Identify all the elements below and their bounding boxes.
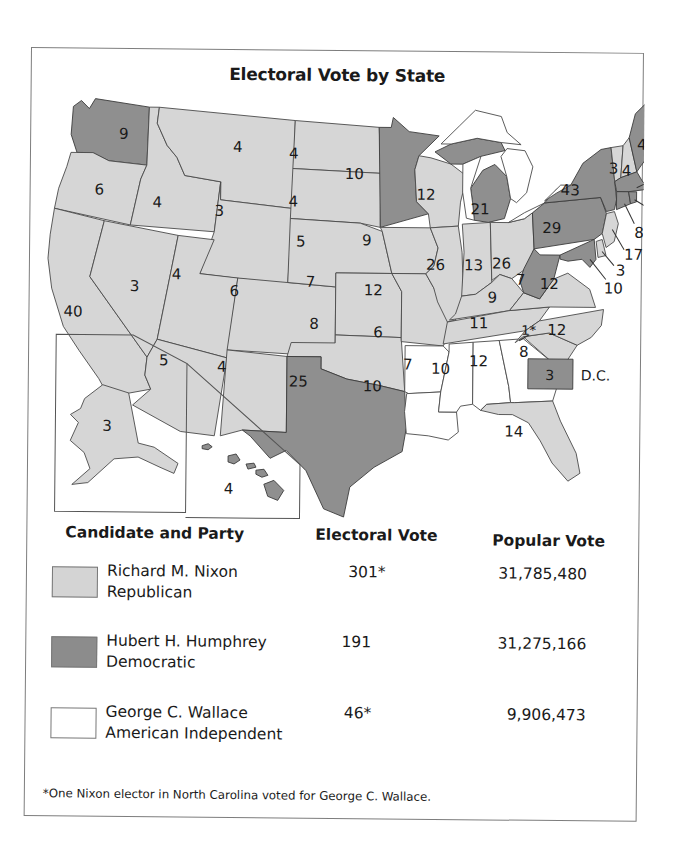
label-alabama: 10 xyxy=(431,360,450,378)
label-oregon: 6 xyxy=(95,181,105,199)
leader-line-ct xyxy=(624,204,634,224)
map-figure-frame: Electoral Vote by State xyxy=(24,47,644,822)
candidate-name-nixon: Richard M. Nixon Republican xyxy=(107,561,238,604)
swatch-republican xyxy=(52,566,98,597)
state-connecticut[interactable] xyxy=(616,192,630,210)
footnote: *One Nixon elector in North Carolina vot… xyxy=(43,786,431,804)
label-nevada: 3 xyxy=(130,277,140,295)
candidate-name: Hubert H. Humphrey xyxy=(106,631,267,654)
candidate-name: Richard M. Nixon xyxy=(107,561,238,583)
label-iowa: 9 xyxy=(362,231,372,249)
legend-row-wallace: George C. Wallace American Independent 4… xyxy=(25,705,636,761)
label-arizona: 5 xyxy=(159,351,169,369)
label-ohio: 26 xyxy=(492,254,511,272)
label-california: 40 xyxy=(63,302,82,320)
label-south-carolina: 8 xyxy=(519,343,529,361)
label-nebraska: 5 xyxy=(296,233,306,251)
label-alaska: 3 xyxy=(102,417,112,435)
candidate-name-humphrey: Hubert H. Humphrey Democratic xyxy=(106,631,267,675)
label-connecticut: 8 xyxy=(634,224,644,242)
label-tennessee: 11 xyxy=(469,314,488,332)
popular-vote-wallace: 9,906,473 xyxy=(456,705,586,724)
label-mississippi: 7 xyxy=(403,356,413,374)
label-west-virginia: 7 xyxy=(516,271,526,289)
label-north-carolina: 12 xyxy=(547,321,566,339)
label-wisconsin: 12 xyxy=(417,186,436,204)
electoral-vote-wallace: 46* xyxy=(318,704,398,723)
label-maryland: 10 xyxy=(604,280,623,298)
label-utah: 4 xyxy=(172,265,182,283)
label-arkansas: 6 xyxy=(373,323,383,341)
legend-row-humphrey: Hubert H. Humphrey Democratic 191 31,275… xyxy=(26,634,637,690)
label-illinois: 26 xyxy=(426,256,445,274)
header-candidate-party: Candidate and Party xyxy=(65,523,244,543)
popular-vote-nixon: 31,785,480 xyxy=(457,564,587,583)
label-wyoming: 3 xyxy=(214,202,224,220)
label-south-dakota: 4 xyxy=(288,192,298,210)
swatch-american-independent xyxy=(50,707,96,738)
label-colorado: 6 xyxy=(230,282,240,300)
label-idaho: 4 xyxy=(152,193,162,211)
label-montana: 4 xyxy=(233,138,243,156)
label-new-york: 43 xyxy=(561,181,580,199)
label-maine: 4 xyxy=(637,136,645,154)
party-name: Democratic xyxy=(106,652,267,675)
label-virginia: 12 xyxy=(540,275,559,293)
label-indiana: 13 xyxy=(464,256,483,274)
swatch-democratic xyxy=(51,636,97,667)
label-texas: 25 xyxy=(289,372,308,390)
label-kansas: 7 xyxy=(306,273,316,291)
leader-line-de xyxy=(602,251,614,265)
state-south-dakota[interactable] xyxy=(290,168,381,227)
us-electoral-map: 3 D.C. 9 6 40 4 3 4 3 4 5 6 4 4 4 5 7 8 … xyxy=(27,48,644,524)
label-minnesota: 10 xyxy=(345,165,364,183)
label-florida: 14 xyxy=(504,423,523,441)
label-washington: 9 xyxy=(119,125,129,143)
dc-label: D.C. xyxy=(581,367,611,383)
candidate-name: George C. Wallace xyxy=(106,702,283,725)
popular-vote-humphrey: 31,275,166 xyxy=(456,634,586,653)
leader-line-md xyxy=(590,259,606,279)
label-louisiana: 10 xyxy=(363,377,382,395)
electoral-vote-humphrey: 191 xyxy=(316,633,396,652)
electoral-vote-nixon: 301* xyxy=(327,563,407,582)
label-vermont: 3 xyxy=(609,160,619,178)
state-north-dakota[interactable] xyxy=(293,121,381,174)
label-north-carolina-split: 1* xyxy=(521,323,536,338)
label-new-hampshire: 4 xyxy=(622,162,632,180)
candidate-name-wallace: George C. Wallace American Independent xyxy=(105,702,282,746)
state-florida[interactable] xyxy=(480,400,581,481)
label-north-dakota: 4 xyxy=(289,144,299,162)
label-georgia: 12 xyxy=(469,352,488,370)
label-michigan: 21 xyxy=(470,200,489,218)
label-delaware: 3 xyxy=(616,262,626,280)
party-name: Republican xyxy=(107,582,238,604)
label-new-jersey: 17 xyxy=(624,246,643,264)
label-oklahoma: 8 xyxy=(309,315,319,333)
label-hawaii: 4 xyxy=(224,480,234,498)
header-popular-vote: Popular Vote xyxy=(492,531,605,550)
header-electoral-vote: Electoral Vote xyxy=(315,526,437,545)
label-new-mexico: 4 xyxy=(217,358,227,376)
legend-row-nixon: Richard M. Nixon Republican 301* 31,785,… xyxy=(27,564,638,620)
dc-votes: 3 xyxy=(545,367,554,383)
label-pennsylvania: 29 xyxy=(542,219,561,237)
party-name: American Independent xyxy=(105,723,282,746)
label-kentucky: 9 xyxy=(488,288,498,306)
label-missouri: 12 xyxy=(364,281,383,299)
